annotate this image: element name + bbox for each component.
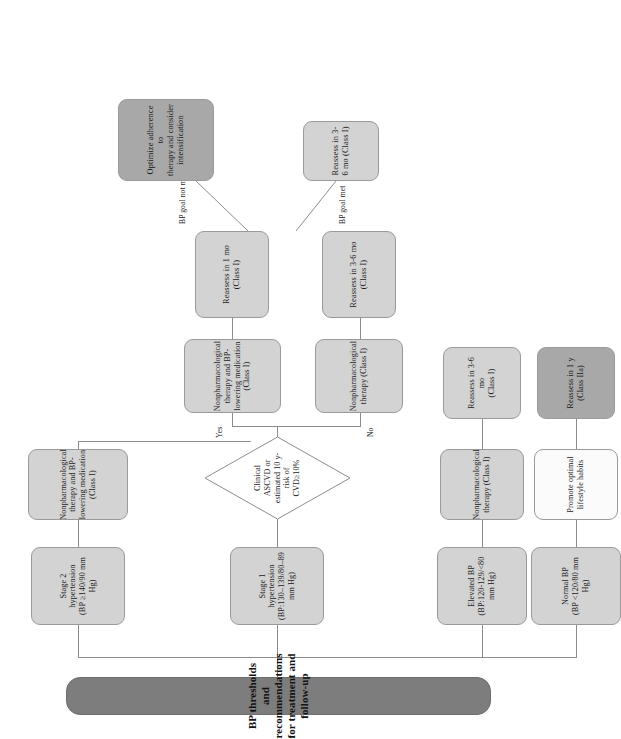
node-no-therapy-line1: Nonpharmacological [349, 341, 359, 411]
node-elevated-bp-line3: mm Hg) [487, 557, 497, 616]
node-stage2-line3: Hg) [88, 551, 98, 621]
edge-label-bp-goal-not-met: BP goal not met [178, 174, 187, 224]
node-reassess-3-6-mo-mid-line1: Reassess in 3-6 mo [349, 241, 359, 307]
node-elevated-therapy-line2: therapy (Class I) [482, 449, 492, 519]
node-optimize-line2: therapy and consider [166, 103, 176, 177]
node-stage2-therapy-line4: (Class I) [88, 449, 98, 519]
connector-normal-to-promote [576, 520, 577, 547]
node-elevated-followup-line1: Reassess in 3-6 mo [467, 351, 486, 415]
edge-label-no: No [366, 428, 375, 437]
node-stage2-therapy: Nonpharmacological therapy and BP- lower… [28, 449, 128, 520]
node-stage2-hypertension: Stage 2 hypertension (BP ≥140/90 mm Hg) [31, 547, 125, 625]
node-no-therapy-line2: therapy (Class I) [359, 341, 369, 411]
node-yes-therapy-line1: Nonpharmacological [213, 341, 223, 411]
node-normal-followup-line1: Reassess in 1 y [566, 357, 576, 408]
node-elevated-followup: Reassess in 3-6 mo (Class I) [443, 347, 521, 419]
figure-title: BP thresholds and recommendations for tr… [66, 677, 491, 715]
node-stage2-line2: (BP ≥140/90 mm [78, 551, 88, 621]
node-decision-line3: CVD≥10% [292, 460, 301, 497]
node-normal-bp: Normal BP (BP <120/80 mm Hg) [531, 547, 621, 625]
node-stage1-line3: mm Hg) [287, 551, 297, 621]
diagonal-bp-goal-met [296, 181, 336, 231]
node-optimize-line3: intensification [176, 103, 186, 177]
connector-branch-elevated [482, 625, 483, 658]
node-stage2-therapy-line3: lowering medication [78, 449, 88, 519]
figure-title-text: BP thresholds and recommendations for tr… [246, 653, 311, 738]
node-stage1-line1: Stage 1 hypertension [258, 551, 277, 621]
node-optimize-line1: Optimize adherence to [146, 103, 166, 177]
edge-label-bp-goal-met: BP goal met [338, 186, 347, 224]
node-normal-followup: Reassess in 1 y (Class IIa) [537, 347, 615, 419]
node-decision-line1: Clinical ASCVD or [253, 460, 272, 497]
node-reassess-3-6-mo-right: Reassess in 3- 6 mo (Class I) [303, 121, 379, 181]
node-reassess-1-mo: Reassess in 1 mo (Class I) [195, 231, 269, 318]
node-elevated-therapy-line1: Nonpharmacological [472, 449, 482, 519]
node-promote-lifestyle: Promote optimal lifestyle habits [534, 449, 618, 520]
connector-elevated-to-therapy [482, 520, 483, 547]
node-promote-lifestyle-line1: Promote optimal [566, 456, 576, 512]
node-reassess-1-mo-line2: (Class I) [232, 245, 242, 304]
connector-promote-to-fu [576, 419, 577, 449]
node-no-therapy: Nonpharmacological therapy (Class I) [315, 339, 403, 413]
node-stage1-line2: (BP:130–139/80–89 [277, 551, 287, 621]
node-normal-followup-line2: (Class IIa) [576, 357, 586, 408]
node-decision-ascvd-risk: Clinical ASCVD or estimated 10 y-risk of… [205, 437, 350, 519]
node-elevated-bp-line1: Elevated BP [467, 557, 477, 616]
node-reassess-3-6-mo-right-line2: 6 mo (Class I) [341, 126, 351, 175]
node-elevated-therapy: Nonpharmacological therapy (Class I) [440, 449, 524, 520]
node-reassess-3-6-mo-right-line1: Reassess in 3- [331, 126, 341, 175]
node-stage2-therapy-line1: Nonpharmacological [59, 449, 69, 519]
node-elevated-followup-line2: (Class I) [487, 351, 497, 415]
node-reassess-3-6-mo-mid-line2: (Class I) [359, 241, 369, 307]
node-yes-therapy-line2: therapy and BP- [223, 341, 233, 411]
node-yes-therapy: Nonpharmacological therapy and BP- lower… [184, 339, 281, 413]
node-yes-therapy-line3: lowering medication [233, 341, 243, 411]
node-stage2-line1: Stage 2 hypertension [59, 551, 78, 621]
node-promote-lifestyle-line2: lifestyle habits [576, 456, 586, 512]
node-elevated-bp: Elevated BP (BP:120-129/<80 mm Hg) [437, 547, 527, 625]
node-reassess-1-mo-line1: Reassess in 1 mo [222, 245, 232, 304]
node-yes-therapy-line4: (Class I) [242, 341, 252, 411]
node-normal-bp-line3: Hg) [581, 557, 591, 615]
node-stage1-hypertension: Stage 1 hypertension (BP:130–139/80–89 m… [230, 547, 324, 625]
node-reassess-3-6-mo-mid: Reassess in 3-6 mo (Class I) [322, 231, 396, 318]
node-stage2-therapy-line2: therapy and BP- [68, 449, 78, 519]
connector-branch-normal [576, 625, 577, 658]
node-optimize-adherence: Optimize adherence to therapy and consid… [118, 99, 214, 181]
node-decision-line2: estimated 10 y-risk of [273, 453, 292, 503]
connector-elevated-therapy-to-fu [482, 419, 483, 449]
node-normal-bp-line1: Normal BP [561, 557, 571, 615]
node-normal-bp-line2: (BP <120/80 mm [571, 557, 581, 615]
node-elevated-bp-line2: (BP:120-129/<80 [477, 557, 487, 616]
diagonal-bp-goal-not-met [196, 181, 248, 231]
